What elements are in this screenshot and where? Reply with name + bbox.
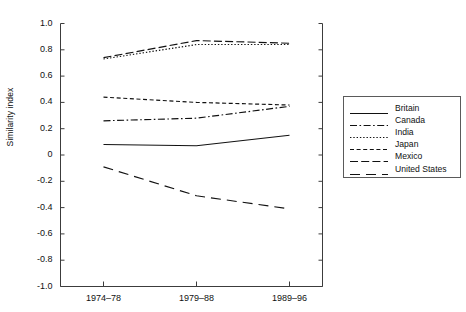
y-tick-label: -0.8 (19, 254, 53, 264)
data-series-group (104, 41, 290, 209)
series-line-japan (104, 97, 290, 105)
y-tick-label: 0.2 (19, 123, 53, 133)
legend-item-label: India (395, 128, 414, 137)
legend-line-sample-icon (350, 152, 388, 161)
x-tick-label: 1974–78 (64, 293, 144, 303)
y-tick-label: 0 (19, 149, 53, 159)
legend-item-label: Japan (395, 140, 418, 149)
legend-line-sample-icon (350, 116, 388, 125)
legend-line-sample-icon (350, 128, 388, 137)
legend-item-label: Britain (395, 104, 419, 113)
legend-item[interactable]: United States (344, 163, 460, 175)
y-tick-label: -0.4 (19, 202, 53, 212)
y-tick-label: 0.4 (19, 96, 53, 106)
series-line-india (104, 45, 290, 59)
legend-list: BritainCanadaIndiaJapanMexicoUnited Stat… (344, 97, 460, 177)
chart-page: Similarity index 1.00.80.60.40.20-0.2-0.… (0, 0, 466, 312)
series-line-united-states (104, 167, 290, 209)
legend-line-sample-icon (350, 140, 388, 149)
legend-item-label: Mexico (395, 152, 422, 161)
y-tick-label: -1.0 (19, 281, 53, 291)
legend-item[interactable]: Britain (344, 102, 460, 114)
y-tick-label: 0.6 (19, 70, 53, 80)
legend-item[interactable]: Japan (344, 139, 460, 151)
axes (61, 24, 323, 287)
legend-item[interactable]: India (344, 126, 460, 138)
figure: Similarity index 1.00.80.60.40.20-0.2-0.… (0, 0, 466, 312)
series-line-britain (104, 135, 290, 146)
legend-line-sample-icon (350, 165, 388, 174)
legend-item[interactable]: Canada (344, 114, 460, 126)
series-line-canada (104, 106, 290, 120)
y-tick-label: 1.0 (19, 18, 53, 28)
y-tick-label: -0.6 (19, 228, 53, 238)
series-line-mexico (104, 41, 290, 58)
x-tick-label: 1989–96 (250, 293, 330, 303)
legend-item-label: United States (395, 165, 447, 174)
legend-item[interactable]: Mexico (344, 151, 460, 163)
x-tick-label: 1979–88 (157, 293, 237, 303)
legend-item-label: Canada (395, 116, 425, 125)
y-tick-label: 0.8 (19, 44, 53, 54)
legend: BritainCanadaIndiaJapanMexicoUnited Stat… (343, 96, 461, 178)
legend-line-sample-icon (350, 104, 388, 113)
y-tick-label: -0.2 (19, 175, 53, 185)
